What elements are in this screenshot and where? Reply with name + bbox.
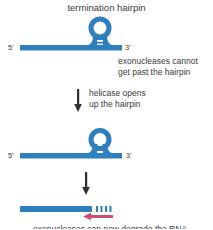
hairpin-stem-right <box>103 144 106 154</box>
degraded-tick <box>96 206 98 212</box>
helicase-caption: helicase opens up the hairpin <box>89 88 146 109</box>
down-arrow-icon <box>72 89 84 113</box>
arrow-head <box>82 187 90 195</box>
degraded-tick <box>110 206 112 212</box>
base-pair-rung <box>96 42 104 44</box>
hairpin-stem-left <box>94 35 97 46</box>
five-prime-label: 5' <box>8 43 14 52</box>
three-prime-label: 3' <box>125 43 131 52</box>
three-prime-label: 3' <box>126 151 132 160</box>
hairpin-stem-left <box>94 144 97 154</box>
degraded-tick <box>105 206 107 212</box>
five-prime-label: 5' <box>8 151 14 160</box>
bottom-caption: exonucleases can now degrade the RNA <box>33 224 187 230</box>
rna-strand-remaining <box>20 206 92 212</box>
exonuclease-arrow-shaft <box>90 215 113 218</box>
arrow-shaft <box>77 89 79 105</box>
rna-hairpin-closed <box>0 14 213 56</box>
rna-hairpin-open <box>0 124 213 164</box>
hairpin-loop <box>91 19 109 37</box>
arrow-shaft <box>85 172 87 188</box>
exonuclease-arrow-head <box>83 213 91 220</box>
degraded-tick <box>101 206 103 212</box>
hairpin-stem-right <box>103 35 106 46</box>
exonuclease-note: exonucleases cannot get past the hairpin <box>118 56 198 77</box>
base-pair-rung <box>96 38 104 40</box>
down-arrow-icon <box>80 172 92 196</box>
arrow-head <box>74 104 82 112</box>
termination-hairpin-diagram: termination hairpin 5' 3' exonucleases c… <box>0 0 213 229</box>
diagram-title: termination hairpin <box>0 2 213 13</box>
